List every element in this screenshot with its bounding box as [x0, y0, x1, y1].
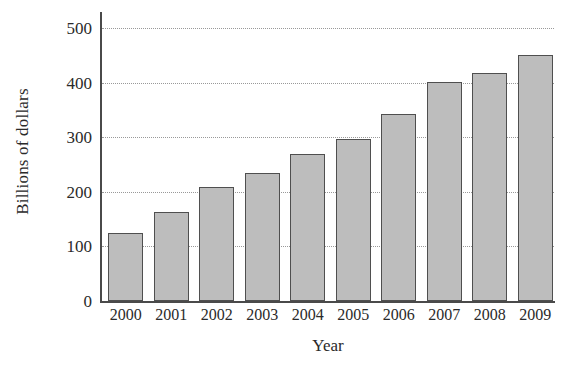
bar-2008[interactable] [472, 73, 507, 301]
x-tick-label-2004: 2004 [285, 306, 331, 324]
bar-2003[interactable] [245, 173, 280, 301]
y-tick-label-300: 300 [48, 129, 92, 146]
bar-2002[interactable] [199, 187, 234, 302]
bar-series [100, 12, 555, 303]
x-tick-label-2008: 2008 [467, 306, 513, 324]
bar-2004[interactable] [290, 154, 325, 301]
bar-chart: Billions of dollars 0100200300400500 200… [0, 0, 572, 368]
x-tick-label-2003: 2003 [240, 306, 286, 324]
bar-2000[interactable] [108, 233, 143, 301]
y-tick-label-500: 500 [48, 20, 92, 37]
y-tick-label-400: 400 [48, 74, 92, 91]
x-tick-label-2000: 2000 [103, 306, 149, 324]
y-tick-label-200: 200 [48, 183, 92, 200]
bar-2007[interactable] [427, 82, 462, 301]
x-axis-title: Year [105, 336, 551, 356]
plot-area [100, 12, 555, 303]
x-tick-label-2005: 2005 [331, 306, 377, 324]
y-tick-label-0: 0 [48, 293, 92, 310]
x-tick-label-2002: 2002 [194, 306, 240, 324]
x-tick-label-2007: 2007 [422, 306, 468, 324]
bar-2006[interactable] [381, 114, 416, 301]
bar-2005[interactable] [336, 139, 371, 301]
x-tick-label-2006: 2006 [376, 306, 422, 324]
y-tick-label-100: 100 [48, 238, 92, 255]
bar-2009[interactable] [518, 55, 553, 301]
x-tick-label-2009: 2009 [513, 306, 559, 324]
x-axis-ticks: 2000200120022003200420052006200720082009 [100, 306, 555, 330]
bar-2001[interactable] [154, 212, 189, 301]
x-tick-label-2001: 2001 [149, 306, 195, 324]
